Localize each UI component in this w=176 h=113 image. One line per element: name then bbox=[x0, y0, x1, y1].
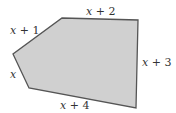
side-label-bottom: x + 4 bbox=[60, 99, 89, 112]
side-label-upper-left: x + 1 bbox=[10, 24, 39, 37]
side-label-top: x + 2 bbox=[86, 5, 115, 18]
side-label-right: x + 3 bbox=[142, 56, 171, 69]
side-label-lower-left: x bbox=[10, 68, 17, 81]
pentagon-diagram: x + 2 x + 3 x + 4 x x + 1 bbox=[0, 0, 176, 113]
